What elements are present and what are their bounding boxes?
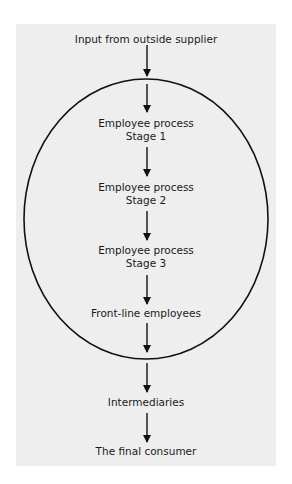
node-stage2-title: Employee process: [16, 181, 276, 194]
node-stage1-title: Employee process: [16, 117, 276, 130]
node-stage1-subtitle: Stage 1: [16, 130, 276, 143]
node-input-from-supplier: Input from outside supplier: [16, 33, 276, 46]
node-stage2-subtitle: Stage 2: [16, 194, 276, 207]
node-front-line-employees: Front-line employees: [16, 307, 276, 320]
node-final-consumer: The final consumer: [16, 445, 276, 458]
flow-diagram: [0, 0, 292, 484]
node-stage3-title: Employee process: [16, 244, 276, 257]
node-intermediaries: Intermediaries: [16, 396, 276, 409]
node-stage3-subtitle: Stage 3: [16, 257, 276, 270]
